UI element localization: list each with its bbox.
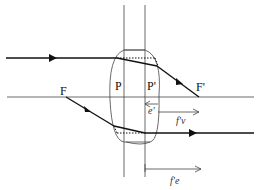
label-f-prime: F' (196, 81, 205, 93)
label-e-prime: e' (148, 106, 155, 116)
refracted-ray-lower (114, 126, 145, 133)
label-f: F (60, 85, 67, 97)
label-p-prime: P' (147, 80, 156, 92)
arrow-head-icon (49, 54, 57, 62)
label-fe: f'e (170, 176, 179, 186)
refracted-ray-upper (117, 58, 157, 66)
label-fv: f'v (176, 116, 185, 126)
lens-diagram (0, 0, 258, 190)
extension-dotted-upper-2 (155, 58, 158, 66)
label-p: P (115, 80, 122, 92)
arrow-head-icon (176, 78, 183, 85)
arrow-head-icon (84, 106, 91, 112)
arrow-head-icon (189, 129, 197, 137)
